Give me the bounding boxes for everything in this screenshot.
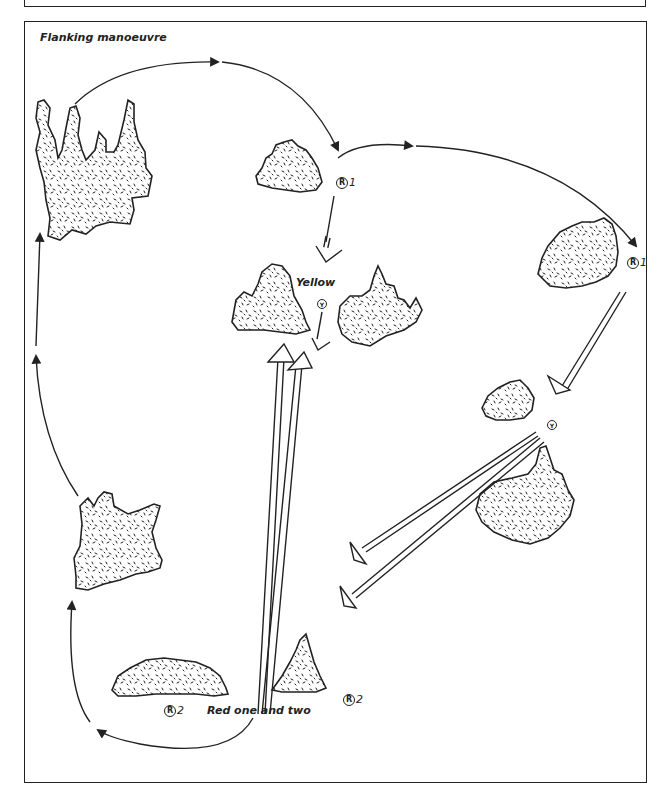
marker-yellow-right: Y [547, 420, 557, 430]
red-unit-icon: R [336, 177, 348, 189]
red-unit-icon: R [627, 257, 639, 269]
attack-arrow-red2-left [258, 344, 294, 714]
terrain-right-small [482, 380, 534, 420]
terrain-top-left [36, 100, 152, 240]
terrain-top-center [256, 140, 322, 192]
attack-arrow-red1-to-yellow [316, 196, 342, 262]
terrain-right-upper [538, 218, 618, 288]
label-red-one-and-two: Red one and two [207, 704, 311, 717]
attack-arrow-yellow-down [312, 312, 330, 350]
marker-red-1-start: R 1 [336, 176, 356, 189]
marker-yellow-center: Y [317, 299, 327, 309]
terrain-bottom-left-tall [74, 492, 162, 590]
marker-red-2-left: R 2 [164, 704, 184, 717]
yellow-unit-icon: Y [547, 420, 557, 430]
terrain-yellow-left [232, 264, 310, 334]
red-unit-icon: R [343, 694, 355, 706]
terrain-bottom-triangle [272, 634, 326, 692]
terrain-yellow-right [338, 266, 422, 346]
marker-red-2-right: R 2 [343, 693, 363, 706]
flanking-diagram [0, 0, 657, 804]
terrain-bottom-left-wide [112, 658, 228, 696]
red-unit-icon: R [164, 705, 176, 717]
label-yellow: Yellow [296, 276, 335, 289]
yellow-unit-icon: Y [317, 299, 327, 309]
terrain-right-lower [476, 446, 574, 544]
flank-route-red1 [75, 62, 636, 246]
marker-red-1-end: R 1 [627, 256, 647, 269]
attack-arrow-red1-down [548, 292, 626, 394]
